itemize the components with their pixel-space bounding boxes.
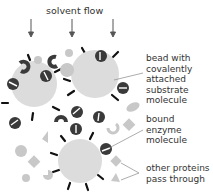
enzyme-label: bound enzyme molecule <box>146 114 187 146</box>
bead <box>71 50 119 98</box>
other-proteins-label: other proteins pass through <box>146 163 210 184</box>
bead-label: bead with covalently attached substrate … <box>146 53 192 106</box>
flow-arrows <box>29 19 116 37</box>
bead <box>58 139 102 183</box>
